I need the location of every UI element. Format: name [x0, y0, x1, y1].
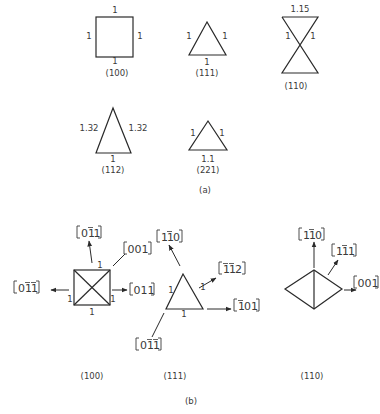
- direction-label-0-1bar-1: 0 1 1: [77, 226, 101, 240]
- plane-label: (110): [285, 81, 308, 91]
- plane-label: (111): [196, 68, 219, 78]
- plane-label-110: (110): [301, 371, 324, 381]
- triangle-221-shape: 1 1 1.1 (221): [189, 121, 227, 175]
- edge-label-left: 1: [168, 285, 173, 295]
- svg-text:001: 001: [128, 243, 149, 256]
- edge-label-bottom: 1: [110, 154, 115, 164]
- arrow-0-11: [89, 241, 92, 263]
- direction-label-001-c: 001: [354, 276, 379, 290]
- arrow-1-1bar-1: [328, 260, 338, 275]
- plane-label: (221): [197, 165, 220, 175]
- triangle-112-shape: 1.32 1.32 1 (112): [80, 108, 148, 175]
- edge-label-right: 1: [222, 31, 227, 41]
- svg-text:2: 2: [235, 263, 242, 276]
- edge-label-bottom: 1: [181, 309, 186, 319]
- direction-label-001: 001: [124, 242, 151, 256]
- svg-text:0: 0: [173, 231, 180, 244]
- arrow-1-1bar-0: [169, 245, 180, 266]
- direction-label-0-1bar-1bar-b: 0 1 1: [136, 338, 161, 352]
- direction-label-1bar-1bar-2: 1 1 2: [219, 262, 245, 276]
- edge-label-right: 1: [310, 31, 315, 41]
- square-100-shape: 1 1 1 1 (100): [86, 5, 142, 78]
- part-a: 1 1 1 1 (100) 1 1 1 (111) 1.15 1 1 (110)…: [80, 4, 318, 195]
- svg-text:0: 0: [140, 339, 147, 352]
- hourglass-110-shape: 1.15 1 1 (110): [282, 4, 318, 91]
- edge-label-left: 1: [67, 294, 72, 304]
- edge-label-left: 1: [190, 128, 195, 138]
- direction-label-1-1bar-0: 1 1 0: [157, 230, 182, 244]
- edge-label-left: 1: [186, 31, 191, 41]
- square-100-projection: 1 1 1 1 0 1 1 001: [14, 226, 155, 317]
- edge-label-top: 1: [97, 260, 102, 270]
- edge-label-right: 1: [110, 294, 115, 304]
- edge-label-left: 1: [285, 31, 290, 41]
- edge-label-right: 1.32: [129, 123, 148, 133]
- diamond-110-projection: 1 1 0 1 1 1 001: [285, 228, 379, 309]
- svg-text:0: 0: [81, 227, 88, 240]
- edge-label-top: 1.15: [291, 4, 310, 14]
- direction-label-0-1bar-1bar: 0 1 1: [14, 281, 39, 295]
- direction-label-1-1bar-1: 1 1 1: [332, 244, 356, 258]
- plane-label-111: (111): [164, 371, 187, 381]
- part-b-caption: (b): [185, 396, 197, 406]
- part-a-caption: (a): [199, 185, 211, 195]
- plane-label: (100): [106, 68, 129, 78]
- edge-label-right: 1: [219, 128, 224, 138]
- plane-label: (112): [102, 165, 125, 175]
- plane-label-100: (100): [81, 371, 104, 381]
- edge-label-bottom: 1: [112, 56, 117, 66]
- edge-label-right: 1: [137, 31, 142, 41]
- direction-label-1bar-01: 1 01: [234, 299, 259, 313]
- leader-001: [113, 254, 125, 266]
- edge-label-top: 1: [112, 5, 117, 15]
- edge-label-left: 1: [86, 31, 91, 41]
- edge-label-bottom: 1: [89, 307, 94, 317]
- svg-text:0: 0: [18, 282, 25, 295]
- edge-label-left: 1.32: [80, 123, 99, 133]
- crystal-plane-diagram: 1 1 1 1 (100) 1 1 1 (111) 1.15 1 1 (110)…: [0, 0, 380, 414]
- svg-text:01: 01: [244, 300, 258, 313]
- edge-label-bottom: 1: [204, 57, 209, 67]
- part-b: 1 1 1 1 0 1 1 001: [14, 226, 379, 406]
- edge-label-bottom: 1.1: [201, 154, 215, 164]
- leader-0-1bar-1bar: [152, 313, 164, 337]
- svg-text:0: 0: [315, 229, 322, 242]
- direction-label-1-1bar-0-c: 1 1 0: [299, 228, 324, 242]
- triangle-111-shape: 1 1 1 (111): [186, 22, 227, 78]
- direction-label-011: 011: [130, 283, 155, 297]
